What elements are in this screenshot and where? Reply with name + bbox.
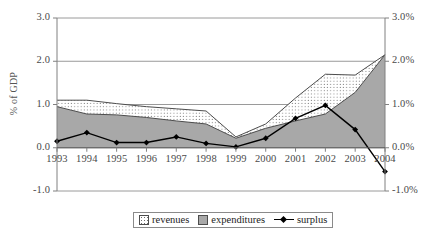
y-axis-left-tick: 1.0 <box>0 98 50 109</box>
legend-item-revenues[interactable]: revenues <box>139 214 189 225</box>
legend-item-expenditures[interactable]: expenditures <box>198 214 265 225</box>
legend-label-expenditures: expenditures <box>211 214 265 225</box>
chart-legend: revenues expenditures surplus <box>133 212 333 228</box>
chart-plot-area <box>0 0 430 240</box>
y-axis-left-tick: 3.0 <box>0 11 50 22</box>
legend-label-surplus: surplus <box>297 214 327 225</box>
revenues-swatch-icon <box>139 215 149 225</box>
y-axis-right-tick: 3.0% <box>392 11 414 22</box>
y-axis-right-tick: 0.0% <box>392 141 414 152</box>
surplus-line-marker-icon <box>274 216 294 224</box>
y-axis-left-tick: 0.0 <box>0 141 50 152</box>
y-axis-right-tick: 2.0% <box>392 54 414 65</box>
legend-label-revenues: revenues <box>152 214 189 225</box>
expenditures-swatch-icon <box>198 215 208 225</box>
legend-item-surplus[interactable]: surplus <box>274 214 327 225</box>
chart-container: % of GDP 3.02.01.00.0-1.0 3.0%2.0%1.0%0.… <box>0 0 430 240</box>
y-axis-left-tick: 2.0 <box>0 54 50 65</box>
x-axis-tick: 2004 <box>366 153 404 164</box>
y-axis-left-tick: -1.0 <box>0 184 50 195</box>
y-axis-right-tick: -1.0% <box>392 184 418 195</box>
y-axis-right-tick: 1.0% <box>392 98 414 109</box>
